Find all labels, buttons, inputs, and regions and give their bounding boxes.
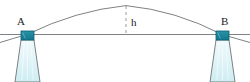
pylon-right-cap [216, 31, 229, 40]
diagram-canvas [0, 0, 250, 82]
point-a-label: A [17, 16, 25, 27]
pylon-left-cap [21, 31, 34, 40]
bridge-sag-diagram: A B h [0, 0, 250, 82]
sag-height-label: h [131, 17, 137, 28]
point-b-label: B [221, 16, 228, 27]
